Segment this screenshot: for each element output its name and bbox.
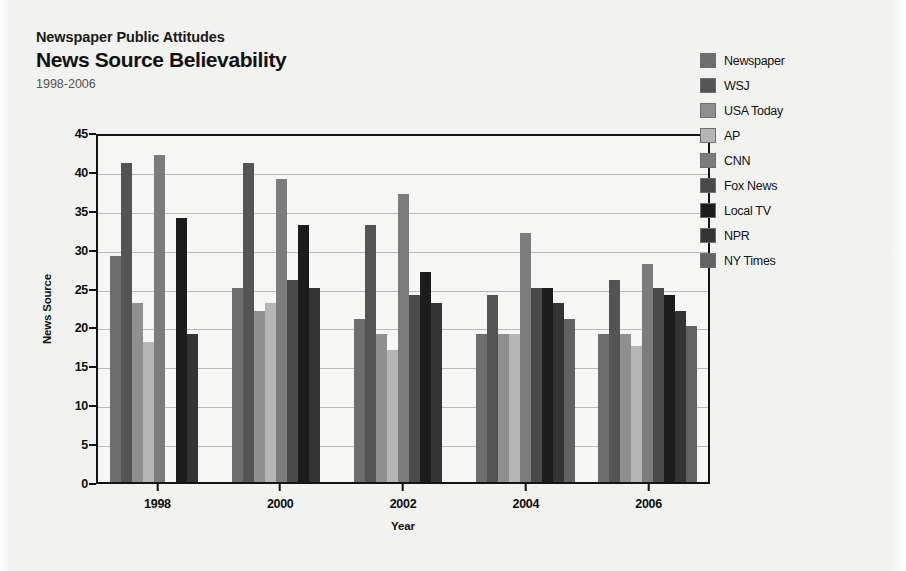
bar bbox=[675, 311, 686, 482]
y-tick-mark bbox=[89, 250, 96, 252]
bar bbox=[254, 311, 265, 482]
legend-item[interactable]: Fox News bbox=[700, 173, 850, 198]
x-axis-label: Year bbox=[96, 520, 710, 532]
bar-group bbox=[98, 136, 220, 482]
bar bbox=[431, 303, 442, 482]
bar bbox=[265, 303, 276, 482]
legend-item[interactable]: Local TV bbox=[700, 198, 850, 223]
bar-set bbox=[476, 136, 575, 482]
legend-item[interactable]: NPR bbox=[700, 223, 850, 248]
bar bbox=[354, 319, 365, 482]
bar bbox=[232, 288, 243, 482]
legend-item-label: Fox News bbox=[724, 179, 777, 193]
x-tick: 1998 bbox=[144, 484, 171, 511]
y-tick-label: 45 bbox=[75, 127, 88, 141]
bar-set bbox=[232, 136, 331, 482]
bar bbox=[642, 264, 653, 482]
bar bbox=[653, 288, 664, 482]
y-tick-mark bbox=[89, 405, 96, 407]
x-tick-label: 2006 bbox=[635, 497, 662, 511]
page-title: News Source Believability bbox=[36, 47, 636, 72]
bar bbox=[309, 288, 320, 482]
y-tick-label: 40 bbox=[75, 166, 88, 180]
legend-item[interactable]: CNN bbox=[700, 148, 850, 173]
y-tick-mark bbox=[89, 172, 96, 174]
bar bbox=[387, 350, 398, 482]
bar bbox=[509, 334, 520, 482]
x-tick-mark bbox=[648, 484, 650, 491]
legend-swatch bbox=[700, 253, 716, 268]
legend-item[interactable]: NY Times bbox=[700, 248, 850, 273]
chart-subtitle: 1998-2006 bbox=[36, 76, 636, 92]
bar bbox=[365, 225, 376, 482]
bar bbox=[121, 163, 132, 482]
x-tick-label: 2004 bbox=[512, 497, 539, 511]
bar-set bbox=[354, 136, 453, 482]
bar-set bbox=[598, 136, 697, 482]
y-tick-mark bbox=[89, 289, 96, 291]
y-tick-label: 25 bbox=[75, 283, 88, 297]
bar bbox=[520, 233, 531, 482]
legend-item[interactable]: USA Today bbox=[700, 98, 850, 123]
bar bbox=[143, 342, 154, 482]
legend-swatch bbox=[700, 78, 716, 93]
bar-group bbox=[464, 136, 586, 482]
x-tick-mark bbox=[156, 484, 158, 491]
bar bbox=[176, 218, 187, 482]
y-tick-mark bbox=[89, 366, 96, 368]
bar bbox=[631, 346, 642, 482]
y-tick-mark bbox=[89, 133, 96, 135]
y-tick-label: 15 bbox=[75, 360, 88, 374]
bar bbox=[420, 272, 431, 482]
x-tick-mark bbox=[279, 484, 281, 491]
bar-groups bbox=[98, 136, 708, 482]
legend-swatch bbox=[700, 153, 716, 168]
bar bbox=[187, 334, 198, 482]
legend-swatch bbox=[700, 128, 716, 143]
plot-area bbox=[96, 134, 710, 484]
bar bbox=[287, 280, 298, 482]
bar-group bbox=[586, 136, 708, 482]
legend-item-label: AP bbox=[724, 129, 740, 143]
bar bbox=[110, 256, 121, 482]
legend-swatch bbox=[700, 53, 716, 68]
y-axis-label: News Source bbox=[34, 134, 60, 484]
bar bbox=[398, 194, 409, 482]
bar-set bbox=[110, 136, 209, 482]
bar bbox=[686, 326, 697, 482]
bar bbox=[564, 319, 575, 482]
bar bbox=[132, 303, 143, 482]
x-axis-ticks: 19982000200220042006 bbox=[96, 484, 710, 524]
legend-item-label: NY Times bbox=[724, 254, 776, 268]
legend-swatch bbox=[700, 228, 716, 243]
y-tick-label: 20 bbox=[75, 321, 88, 335]
x-tick: 2004 bbox=[512, 484, 539, 511]
legend-item-label: NPR bbox=[724, 229, 750, 243]
legend-item[interactable]: AP bbox=[700, 123, 850, 148]
y-tick-label: 0 bbox=[81, 477, 88, 491]
legend-swatch bbox=[700, 103, 716, 118]
legend-item-label: CNN bbox=[724, 154, 750, 168]
legend-item[interactable]: WSJ bbox=[700, 73, 850, 98]
legend-item-label: USA Today bbox=[724, 104, 783, 118]
x-tick: 2006 bbox=[635, 484, 662, 511]
y-tick-mark bbox=[89, 211, 96, 213]
y-axis-label-text: News Source bbox=[41, 274, 53, 344]
x-tick-label: 1998 bbox=[144, 497, 171, 511]
bar bbox=[154, 155, 165, 482]
chart-header: Newspaper Public Attitudes News Source B… bbox=[36, 28, 636, 92]
x-tick: 2002 bbox=[390, 484, 417, 511]
bar bbox=[498, 334, 509, 482]
bar bbox=[553, 303, 564, 482]
bar-group bbox=[342, 136, 464, 482]
y-tick-label: 35 bbox=[75, 205, 88, 219]
legend-item[interactable]: Newspaper bbox=[700, 48, 850, 73]
y-tick-mark bbox=[89, 483, 96, 485]
y-tick-label: 5 bbox=[81, 438, 88, 452]
bar bbox=[476, 334, 487, 482]
y-tick-mark bbox=[89, 327, 96, 329]
legend-item-label: WSJ bbox=[724, 79, 750, 93]
bar bbox=[598, 334, 609, 482]
bar bbox=[664, 295, 675, 482]
y-tick-label: 30 bbox=[75, 244, 88, 258]
